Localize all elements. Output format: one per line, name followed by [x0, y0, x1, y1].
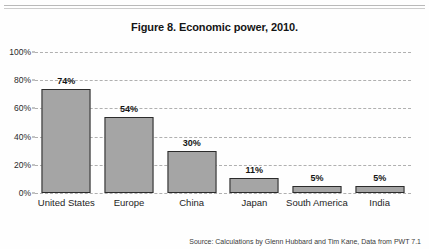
x-axis-category-label: Japan	[219, 197, 289, 208]
bar-value-label: 30%	[183, 138, 201, 148]
y-axis-tick-label: 100%	[9, 47, 31, 57]
chart-plot-area: 0%20%40%60%80%100% 74%United States54%Eu…	[35, 52, 411, 193]
bar[interactable]	[292, 186, 341, 193]
y-axis-tick-label: 0%	[19, 188, 31, 198]
bar[interactable]	[104, 117, 153, 193]
gridline	[35, 193, 411, 194]
bar[interactable]	[167, 151, 216, 193]
x-axis-category-label: South America	[282, 197, 352, 208]
source-note: Source: Calculations by Glenn Hubbard an…	[189, 238, 421, 245]
bar-group: 5%South America	[286, 52, 349, 193]
bar-value-label: 11%	[246, 165, 264, 175]
y-axis-tick-label: 20%	[14, 160, 31, 170]
bar-group: 74%United States	[35, 52, 98, 193]
bar-value-label: 5%	[373, 173, 386, 183]
figure-page: Figure 8. Economic power, 2010. 0%20%40%…	[0, 0, 429, 249]
bar-value-label: 5%	[310, 173, 323, 183]
bar-value-label: 74%	[57, 76, 75, 86]
x-axis-category-label: India	[345, 197, 415, 208]
bar[interactable]	[355, 186, 404, 193]
bar-group: 5%India	[348, 52, 411, 193]
x-axis-category-label: China	[157, 197, 227, 208]
bar-series: 74%United States54%Europe30%China11%Japa…	[35, 52, 411, 193]
top-rule-upper	[4, 5, 425, 6]
page-title: Figure 8. Economic power, 2010.	[0, 21, 429, 33]
y-axis-tick-label: 40%	[14, 132, 31, 142]
y-axis-tick-label: 60%	[14, 103, 31, 113]
bar-group: 30%China	[160, 52, 223, 193]
top-rule-lower	[4, 8, 425, 9]
bar-group: 54%Europe	[98, 52, 161, 193]
bar[interactable]	[42, 89, 91, 193]
x-axis-category-label: United States	[31, 197, 101, 208]
x-axis-category-label: Europe	[94, 197, 164, 208]
bar-group: 11%Japan	[223, 52, 286, 193]
bar-value-label: 54%	[120, 104, 138, 114]
bar[interactable]	[230, 178, 279, 194]
y-axis-tick-label: 80%	[14, 75, 31, 85]
